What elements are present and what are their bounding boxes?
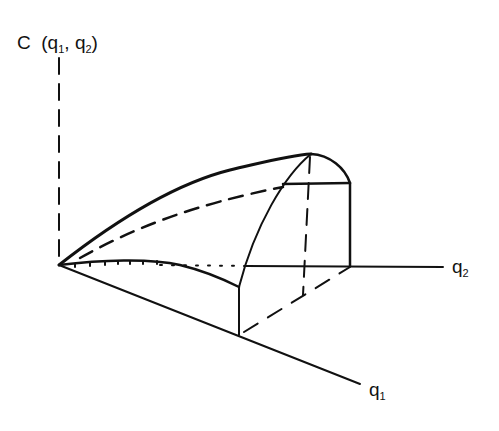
c-axis-label: C (q1, q2): [17, 33, 98, 55]
peak-dashed-vertical: [303, 157, 310, 295]
q1-label-sub: 1: [380, 390, 386, 402]
q2-axis-hidden: [160, 265, 246, 266]
c-label-close: ): [92, 32, 98, 53]
diagram-canvas: [0, 0, 499, 431]
q2-label: q: [452, 256, 463, 277]
q1-axis-label: q1: [369, 380, 386, 402]
surface-top-edge: [59, 154, 311, 265]
q2-label-sub: 2: [463, 267, 469, 279]
surface-cap-edge: [311, 154, 350, 183]
surface-bottom-edge: [59, 260, 239, 287]
surface-cross-line: [283, 183, 350, 184]
q2-axis-label: q2: [452, 257, 469, 279]
cost-surface-diagram: C (q1, q2) q2 q1: [0, 0, 499, 431]
c-label: C: [17, 32, 31, 53]
c-label-open: (q: [41, 32, 58, 53]
c-label-comma: , q: [64, 32, 85, 53]
floor-dashed-diagonal: [244, 267, 350, 332]
q1-label: q: [369, 379, 380, 400]
q2-axis: [246, 266, 443, 267]
q1-axis: [59, 265, 360, 384]
